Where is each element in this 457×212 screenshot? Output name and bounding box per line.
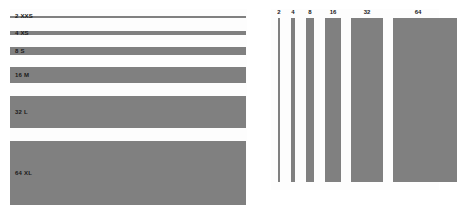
bar-row: 64 XL xyxy=(10,134,247,212)
horizontal-bar xyxy=(10,67,246,83)
vertical-bar xyxy=(278,18,280,182)
bar-label: 8 S xyxy=(15,48,25,54)
bar-label: 64 XL xyxy=(15,170,32,176)
bar-row: 8 S xyxy=(10,43,247,63)
horizontal-bar xyxy=(10,47,246,55)
bar-label: 32 xyxy=(361,9,373,15)
horizontal-bar xyxy=(10,16,246,18)
vertical-bar xyxy=(291,18,295,182)
horizontal-bar xyxy=(10,31,246,35)
bar-row: 2 XXS xyxy=(10,9,247,25)
bar-label: 2 xyxy=(273,9,285,15)
horizontal-bar xyxy=(10,96,246,128)
bar-row: 16 M xyxy=(10,63,247,90)
bar-label: 16 xyxy=(327,9,339,15)
bar-label: 64 xyxy=(412,9,424,15)
bar-label: 8 xyxy=(304,9,316,15)
bar-label: 4 XS xyxy=(15,30,29,36)
bar-label: 2 XXS xyxy=(15,13,33,19)
bar-label: 16 M xyxy=(15,72,29,78)
bar-row: 4 XS xyxy=(10,25,247,43)
vertical-bar xyxy=(393,18,457,182)
horizontal-bars-panel: 2 XXS 4 XS 8 S 16 M 32 L 64 XL xyxy=(10,9,247,190)
bar-row: 32 L xyxy=(10,90,247,134)
vertical-bar xyxy=(351,18,383,182)
bar-label: 32 L xyxy=(15,109,28,115)
bar-label: 4 xyxy=(287,9,299,15)
vertical-bar xyxy=(325,18,341,182)
vertical-bars-panel: 2 4 8 16 32 64 xyxy=(271,9,439,190)
horizontal-bar xyxy=(10,141,246,205)
vertical-bar xyxy=(306,18,314,182)
